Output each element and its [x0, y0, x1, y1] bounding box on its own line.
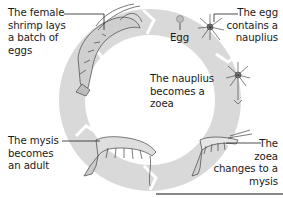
label-egg: Egg	[170, 32, 189, 45]
label-nauplius: The egg contains a nauplius	[226, 7, 278, 45]
label-mysis: The zoea changes to a mysis	[213, 138, 278, 188]
label-zoea: The nauplius becomes a zoea	[150, 73, 214, 111]
shrimp-life-cycle-diagram: The female shrimp lays a batch of eggs E…	[0, 0, 283, 198]
label-adult: The mysis becomes an adult	[8, 135, 59, 173]
egg-icon	[177, 16, 184, 23]
label-female-shrimp: The female shrimp lays a batch of eggs	[8, 7, 66, 57]
